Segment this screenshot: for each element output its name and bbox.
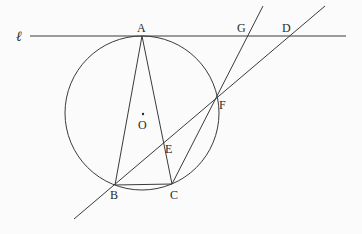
label-b: B	[110, 188, 118, 202]
segment-ac	[142, 36, 172, 184]
label-a: A	[137, 21, 146, 35]
label-line-l: ℓ	[16, 29, 22, 44]
geometry-diagram: ℓ A G D F O E B C	[0, 0, 362, 234]
label-d: D	[282, 21, 291, 35]
label-c: C	[170, 188, 178, 202]
line-cfg	[172, 6, 263, 184]
label-o: O	[138, 118, 147, 132]
circle-o	[65, 36, 219, 190]
label-f: F	[219, 98, 226, 112]
segment-bc	[115, 184, 172, 185]
label-e: E	[165, 142, 172, 156]
segment-ab	[115, 36, 142, 185]
center-point-o	[142, 113, 144, 115]
label-g: G	[237, 21, 246, 35]
